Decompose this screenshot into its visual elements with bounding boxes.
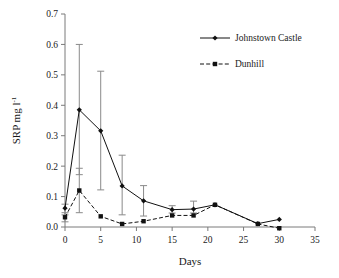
x-tick-label: 15 xyxy=(167,235,177,245)
x-axis-title: Days xyxy=(179,255,202,267)
y-tick-label: 0.2 xyxy=(46,162,58,172)
series-johnstown-castle xyxy=(62,44,282,226)
legend-item-dunhill: Dunhill xyxy=(200,59,264,69)
data-point xyxy=(277,217,282,222)
data-point xyxy=(256,222,260,226)
legend-label: Dunhill xyxy=(235,59,264,69)
x-tick-label: 25 xyxy=(239,235,249,245)
y-tick-label: 0.4 xyxy=(46,101,58,111)
series-dunhill xyxy=(62,168,282,230)
data-point xyxy=(99,214,103,218)
chart-container: 0.00.10.20.30.40.50.60.705101520253035Da… xyxy=(0,0,339,278)
data-point xyxy=(141,219,145,223)
data-point xyxy=(191,206,196,211)
x-tick-label: 0 xyxy=(63,235,68,245)
y-tick-label: 0.1 xyxy=(46,192,58,202)
x-tick-label: 20 xyxy=(203,235,213,245)
y-tick-label: 0.5 xyxy=(46,70,58,80)
srp-line-chart: 0.00.10.20.30.40.50.60.705101520253035Da… xyxy=(0,0,339,278)
data-point xyxy=(170,207,175,212)
data-point xyxy=(213,203,217,207)
x-tick-label: 35 xyxy=(310,235,320,245)
legend-marker xyxy=(212,35,217,40)
data-point xyxy=(77,188,81,192)
data-point xyxy=(62,206,67,211)
y-tick-label: 0.6 xyxy=(46,40,58,50)
y-tick-label: 0.0 xyxy=(46,222,58,232)
data-point xyxy=(277,226,281,230)
x-tick-label: 5 xyxy=(98,235,103,245)
y-axis-title: SRP mg l-1 xyxy=(10,96,22,144)
x-tick-label: 10 xyxy=(132,235,142,245)
legend-label: Johnstown Castle xyxy=(235,33,302,43)
legend-item-johnstown-castle: Johnstown Castle xyxy=(200,33,302,43)
y-tick-label: 0.3 xyxy=(46,131,58,141)
x-tick-label: 30 xyxy=(275,235,285,245)
y-tick-label: 0.7 xyxy=(46,9,58,19)
data-point xyxy=(170,213,174,217)
data-point xyxy=(120,222,124,226)
y-axis-title-text: SRP mg l-1 xyxy=(10,96,22,144)
data-point xyxy=(191,213,195,217)
legend-marker xyxy=(213,62,217,66)
data-point xyxy=(63,215,67,219)
